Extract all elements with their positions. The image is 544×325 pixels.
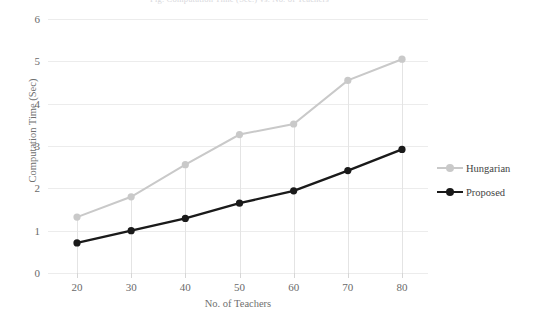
- y-axis-title: Computation Time (Sec): [27, 21, 38, 241]
- x-tick-label: 70: [342, 281, 353, 293]
- series-proposed: [73, 146, 405, 247]
- x-tick-label: 60: [288, 281, 299, 293]
- x-tick: [240, 273, 241, 278]
- x-tick-label: 20: [72, 281, 83, 293]
- data-point: [128, 193, 135, 200]
- y-tick-label: 1: [35, 225, 41, 237]
- data-point: [398, 56, 405, 63]
- x-tick: [294, 273, 295, 278]
- data-point: [290, 187, 297, 194]
- data-point: [182, 161, 189, 168]
- x-tick: [131, 273, 132, 278]
- x-tick-label: 40: [180, 281, 191, 293]
- data-point: [236, 131, 243, 138]
- data-point: [290, 120, 297, 127]
- y-tick-label: 4: [35, 98, 41, 110]
- data-point: [182, 215, 189, 222]
- y-tick-label: 0: [35, 267, 41, 279]
- x-tick-label: 30: [126, 281, 137, 293]
- x-tick: [77, 273, 78, 278]
- plot-area: 0123456 20304050607080: [48, 19, 428, 273]
- x-tick: [185, 273, 186, 278]
- legend-swatch-icon: [437, 162, 463, 174]
- x-tick-label: 80: [397, 281, 408, 293]
- y-tick-label: 5: [35, 55, 41, 67]
- gridline: [48, 273, 428, 274]
- top-caption: Fig. Computation Time (Sec.) vs. No. of …: [150, 0, 544, 4]
- data-point: [344, 167, 351, 174]
- x-axis-title: No. of Teachers: [48, 298, 428, 309]
- legend-swatch-icon: [437, 186, 463, 198]
- data-point: [128, 227, 135, 234]
- legend-label: Proposed: [463, 187, 505, 198]
- series-hungarian: [73, 56, 405, 221]
- y-tick-label: 3: [35, 140, 41, 152]
- legend-item-hungarian[interactable]: Hungarian: [437, 156, 541, 180]
- x-tick: [402, 273, 403, 278]
- y-tick-label: 6: [35, 13, 41, 25]
- legend-item-proposed[interactable]: Proposed: [437, 180, 541, 204]
- series-lines: [48, 19, 428, 273]
- chart-legend: HungarianProposed: [437, 156, 541, 204]
- y-tick-label: 2: [35, 182, 41, 194]
- data-point: [344, 77, 351, 84]
- data-point: [73, 214, 80, 221]
- x-tick-label: 50: [234, 281, 245, 293]
- legend-label: Hungarian: [463, 163, 510, 174]
- chart-figure: Fig. Computation Time (Sec.) vs. No. of …: [0, 0, 544, 325]
- series-line: [77, 149, 402, 243]
- data-point: [73, 239, 80, 246]
- data-point: [398, 146, 405, 153]
- x-tick: [348, 273, 349, 278]
- data-point: [236, 200, 243, 207]
